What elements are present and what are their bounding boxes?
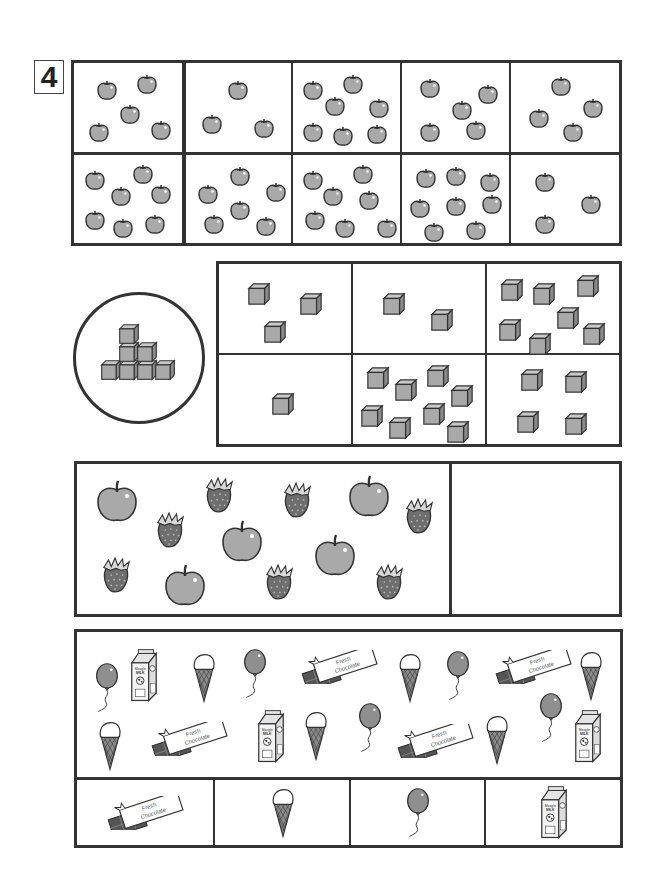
item-wrapper <box>481 193 503 215</box>
treat-answer-cell-milk[interactable] <box>484 780 620 845</box>
apple-icon <box>265 181 287 203</box>
balloon-icon <box>445 648 471 704</box>
item-wrapper <box>534 171 556 193</box>
apple-icon <box>534 171 556 193</box>
cube-reference-circle <box>73 292 205 424</box>
cube-icon <box>564 370 588 394</box>
fruit-answer-box[interactable] <box>452 464 619 614</box>
problem-number-badge: 4 <box>34 60 64 94</box>
ice-cream-icon <box>397 650 423 706</box>
item-wrapper <box>500 278 524 302</box>
treat-answer-cell-balloon[interactable] <box>349 780 485 845</box>
item-wrapper <box>423 221 445 243</box>
treat-answer-cell-icecream[interactable] <box>213 780 349 845</box>
item-wrapper <box>403 496 435 536</box>
cube-cell[interactable] <box>352 264 485 354</box>
item-wrapper <box>396 724 474 758</box>
cube-icon <box>382 292 406 316</box>
item-wrapper <box>422 402 446 426</box>
apple-cell[interactable] <box>183 153 292 243</box>
ice-cream-icon <box>97 718 123 774</box>
item-wrapper <box>112 217 134 239</box>
cube-cell[interactable] <box>352 354 485 444</box>
apple-icon <box>96 79 118 101</box>
apple-icon <box>229 199 251 221</box>
cube-cell[interactable] <box>219 264 352 354</box>
cube-icon <box>247 282 271 306</box>
item-wrapper <box>426 364 450 388</box>
cube-icon <box>516 410 540 434</box>
apple-cell[interactable] <box>401 153 510 243</box>
cube-cell[interactable] <box>486 264 619 354</box>
item-wrapper <box>419 77 441 99</box>
cube-cell[interactable] <box>486 354 619 444</box>
item-wrapper <box>302 121 324 143</box>
item-wrapper <box>88 121 110 143</box>
ice-cream-icon <box>303 708 329 764</box>
item-wrapper <box>347 475 391 519</box>
item-wrapper <box>556 306 580 330</box>
item-wrapper <box>582 322 606 346</box>
apple-count-grid <box>71 60 622 246</box>
apple-icon <box>550 75 572 97</box>
apple-cell[interactable] <box>292 63 401 153</box>
apple-cell[interactable] <box>510 153 619 243</box>
apple-cell[interactable] <box>74 153 183 243</box>
apple-icon <box>582 97 604 119</box>
item-wrapper <box>534 213 556 235</box>
item-wrapper <box>451 99 473 121</box>
strawberry-icon <box>281 480 313 520</box>
balloon-icon <box>94 660 120 716</box>
cube-icon <box>430 308 454 332</box>
apple-icon <box>144 213 166 235</box>
cube-icon <box>576 274 600 298</box>
apple-icon <box>419 77 441 99</box>
item-wrapper <box>582 97 604 119</box>
item-wrapper <box>419 121 441 143</box>
item-wrapper <box>465 219 487 241</box>
cube-icon <box>422 402 446 426</box>
item-wrapper <box>332 125 354 147</box>
item-wrapper <box>368 97 390 119</box>
apple-icon <box>445 195 467 217</box>
cube-icon <box>556 306 580 330</box>
item-wrapper <box>270 785 296 841</box>
item-wrapper <box>562 121 584 143</box>
apple-icon <box>119 103 141 125</box>
treat-answer-cell-chocolate[interactable] <box>77 780 213 845</box>
item-wrapper <box>100 555 132 595</box>
cube-icon <box>498 318 522 342</box>
item-wrapper <box>119 103 141 125</box>
apple-cell[interactable] <box>74 63 183 153</box>
apple-cell[interactable] <box>292 153 401 243</box>
item-wrapper <box>96 79 118 101</box>
cube-icon <box>564 412 588 436</box>
apple-cell[interactable] <box>510 63 619 153</box>
cube-cell[interactable] <box>219 354 352 444</box>
apple-icon <box>255 215 277 237</box>
apple-icon <box>580 193 602 215</box>
apple-cell[interactable] <box>183 63 292 153</box>
item-wrapper <box>358 189 380 211</box>
apple-icon <box>84 209 106 231</box>
apple-icon <box>366 123 388 145</box>
balloon-icon <box>357 700 383 756</box>
cube-count-grid <box>216 261 622 447</box>
item-wrapper <box>550 75 572 97</box>
apple-icon <box>419 121 441 143</box>
apple-icon <box>409 197 431 219</box>
cube-icon <box>450 384 474 408</box>
apple-icon <box>112 217 134 239</box>
cube-icon <box>446 420 470 444</box>
item-wrapper <box>220 520 264 564</box>
item-wrapper <box>578 648 604 704</box>
item-wrapper <box>564 370 588 394</box>
item-wrapper <box>450 384 474 408</box>
cube-icon <box>500 278 524 302</box>
item-wrapper <box>150 119 172 141</box>
item-wrapper <box>394 378 418 402</box>
apple-cell[interactable] <box>401 63 510 153</box>
item-wrapper <box>128 648 160 704</box>
item-wrapper <box>397 650 423 706</box>
apple-icon <box>358 189 380 211</box>
